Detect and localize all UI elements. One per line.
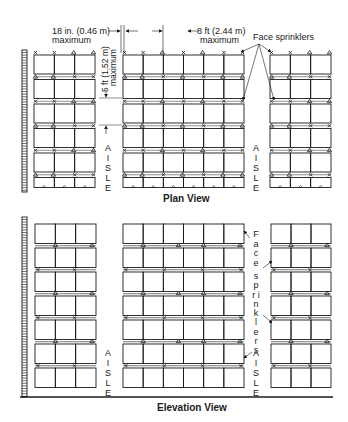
face-sprinklers-callout-elevation-2: s p r i n k l e r s — [252, 272, 260, 356]
sprinkler-triangle-icon — [71, 148, 75, 151]
face-sprinkler-callout-arrow — [244, 231, 250, 238]
elevation-storage-cell — [163, 368, 183, 388]
plan-storage-cell — [224, 129, 244, 148]
aisle-label-plan-left: AISLE — [104, 143, 112, 193]
plan-storage-cell — [204, 104, 224, 123]
plan-storage-cell — [34, 178, 54, 188]
elevation-storage-cell — [224, 368, 244, 388]
plan-view — [22, 25, 332, 192]
sprinkler-x-icon — [53, 51, 56, 54]
sprinkler-triangle-icon — [160, 51, 164, 54]
elevation-storage-cell — [55, 296, 75, 316]
plan-storage-cell — [163, 55, 183, 74]
elevation-storage-cell — [271, 368, 291, 388]
elevation-storage-cell — [271, 344, 291, 364]
elevation-storage-cell — [143, 296, 163, 316]
plan-rack-3 — [269, 51, 331, 188]
elevation-storage-cell — [55, 320, 75, 340]
elevation-storage-cell — [55, 344, 75, 364]
sprinkler-triangle-icon — [269, 173, 273, 176]
plan-storage-cell — [184, 153, 204, 172]
sprinkler-triangle-icon — [287, 173, 291, 176]
plan-storage-cell — [290, 55, 310, 74]
plan-storage-cell — [270, 178, 290, 188]
plan-storage-cell — [184, 104, 204, 123]
sprinkler-triangle-icon — [287, 75, 291, 78]
sprinkler-x-icon — [142, 51, 145, 54]
elevation-storage-cell — [184, 344, 204, 364]
sprinkler-triangle-icon — [140, 173, 144, 176]
elevation-storage-cell — [224, 320, 244, 340]
elevation-storage-cell — [76, 248, 96, 268]
elevation-storage-cell — [123, 296, 143, 316]
elevation-storage-cell — [35, 368, 55, 388]
sprinkler-triangle-icon — [91, 99, 95, 102]
sprinkler-triangle-icon — [91, 51, 95, 54]
plan-rack-2 — [122, 51, 244, 188]
elevation-storage-cell — [163, 248, 183, 268]
plan-storage-cell — [224, 178, 244, 188]
dim-18in-qualifier: maximum — [52, 36, 91, 45]
elevation-storage-cell — [163, 296, 183, 316]
sprinkler-x-icon — [222, 51, 225, 54]
sprinkler-x-icon — [289, 51, 292, 54]
elevation-storage-cell — [163, 272, 183, 292]
elevation-storage-cell — [291, 320, 311, 340]
elevation-storage-cell — [76, 320, 96, 340]
plan-storage-cell — [163, 153, 183, 172]
elevation-storage-cell — [291, 248, 311, 268]
ladder-icon — [22, 50, 27, 192]
elevation-storage-cell — [184, 368, 204, 388]
face-sprinkler-callout-arrow — [263, 315, 272, 323]
elevation-storage-cell — [76, 296, 96, 316]
sprinkler-triangle-icon — [287, 124, 291, 127]
elevation-storage-cell — [35, 296, 55, 316]
plan-storage-cell — [311, 178, 331, 188]
plan-storage-cell — [75, 178, 95, 188]
plan-storage-cell — [54, 80, 74, 99]
face-sprinkler-callout-arrow — [241, 44, 259, 52]
elevation-storage-cell — [76, 368, 96, 388]
plan-storage-cell — [75, 104, 95, 123]
elevation-rack-2 — [123, 224, 244, 388]
plan-storage-cell — [54, 55, 74, 74]
plan-storage-cell — [75, 153, 95, 172]
sprinkler-triangle-icon — [240, 75, 244, 78]
elevation-storage-cell — [184, 224, 204, 244]
sprinkler-triangle-icon — [240, 124, 244, 127]
sprinkler-triangle-icon — [122, 75, 126, 78]
plan-storage-cell — [34, 153, 54, 172]
face-sprinklers-callout-elevation: F a c e — [252, 230, 260, 268]
sprinkler-triangle-icon — [51, 173, 55, 176]
sprinkler-triangle-icon — [200, 51, 204, 54]
plan-storage-cell — [143, 129, 163, 148]
plan-storage-cell — [163, 80, 183, 99]
sprinkler-triangle-icon — [180, 173, 184, 176]
plan-storage-cell — [54, 178, 74, 188]
elevation-storage-cell — [76, 224, 96, 244]
elevation-storage-cell — [204, 296, 224, 316]
elevation-storage-cell — [35, 344, 55, 364]
elevation-storage-cell — [311, 368, 331, 388]
plan-storage-cell — [204, 153, 224, 172]
elevation-storage-cell — [163, 224, 183, 244]
plan-storage-cell — [311, 104, 331, 123]
sprinkler-triangle-icon — [160, 99, 164, 102]
elevation-storage-cell — [311, 296, 331, 316]
elevation-storage-cell — [143, 368, 163, 388]
plan-storage-cell — [184, 178, 204, 188]
elevation-storage-cell — [143, 248, 163, 268]
plan-storage-cell — [311, 80, 331, 99]
plan-storage-cell — [75, 129, 95, 148]
plan-storage-cell — [290, 178, 310, 188]
plan-storage-cell — [184, 129, 204, 148]
plan-storage-cell — [184, 80, 204, 99]
sprinkler-triangle-icon — [71, 99, 75, 102]
face-sprinklers-callout-plan: Face sprinklers — [253, 33, 314, 42]
plan-storage-cell — [270, 153, 290, 172]
plan-storage-cell — [290, 80, 310, 99]
sprinkler-triangle-icon — [240, 173, 244, 176]
sprinkler-x-icon — [182, 51, 185, 54]
elevation-storage-cell — [35, 248, 55, 268]
dim-5ft-qualifier: maximum — [109, 49, 117, 86]
